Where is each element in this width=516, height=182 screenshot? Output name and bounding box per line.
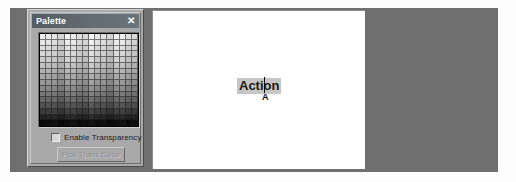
palette-swatch[interactable]	[132, 120, 138, 126]
text-cursor-icon	[264, 77, 265, 93]
palette-swatch-frame	[38, 32, 140, 128]
palette-window-title: Palette	[36, 16, 66, 26]
palette-titlebar[interactable]: Palette ✕	[32, 14, 139, 28]
application-desktop: Action A Palette ✕ Enable Transparency	[10, 8, 498, 172]
enable-transparency-row[interactable]: Enable Transparency	[51, 133, 142, 142]
enable-transparency-label: Enable Transparency	[64, 133, 142, 142]
document-canvas[interactable]: Action A	[152, 10, 365, 169]
close-icon[interactable]: ✕	[125, 16, 137, 26]
selected-text[interactable]: Action	[237, 78, 281, 94]
enable-transparency-checkbox[interactable]	[51, 133, 60, 142]
palette-window-inner: Palette ✕ Enable Transparency Pick Trans…	[30, 12, 141, 164]
palette-swatch-grid[interactable]	[40, 34, 138, 126]
screenshot-root: Action A Palette ✕ Enable Transparency	[0, 0, 516, 182]
palette-window[interactable]: Palette ✕ Enable Transparency Pick Trans…	[27, 9, 144, 167]
canvas-text-object[interactable]: Action A	[237, 77, 281, 94]
pick-trans-color-button: Pick Trans Color	[57, 147, 125, 162]
caret-mark-icon: A	[262, 93, 269, 102]
